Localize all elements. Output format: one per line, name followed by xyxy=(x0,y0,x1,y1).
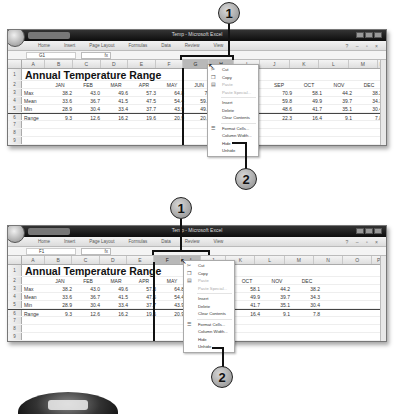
row-header[interactable]: 9 xyxy=(8,137,22,144)
menu-item-insert[interactable]: Insert xyxy=(184,295,234,303)
cell[interactable] xyxy=(22,277,46,284)
tab-insert[interactable]: Insert xyxy=(64,43,75,48)
column-header-a[interactable]: A xyxy=(22,256,45,264)
row-header[interactable]: 6 xyxy=(8,114,22,120)
menu-item-paste[interactable]: ▤Paste xyxy=(184,277,234,285)
menu-item-delete[interactable]: Delete xyxy=(208,107,258,115)
tab-view[interactable]: View xyxy=(214,239,224,244)
menu-item-insert[interactable]: Insert xyxy=(208,99,258,107)
cell[interactable]: 33.4 xyxy=(102,301,130,308)
cell[interactable]: 39.7 xyxy=(324,97,354,104)
cell[interactable]: 9.1 xyxy=(262,310,292,316)
menu-item-format-cells[interactable]: ☰Format Cells... xyxy=(208,125,258,133)
select-all-corner[interactable] xyxy=(8,256,22,264)
cell[interactable]: 49.9 xyxy=(294,97,324,104)
menu-item-paste-special[interactable]: Paste Special... xyxy=(184,285,234,293)
minimize-button[interactable] xyxy=(356,228,364,234)
row-header[interactable]: 8 xyxy=(8,129,22,136)
menu-item-unhide[interactable]: Unhide xyxy=(184,343,234,351)
row-header[interactable]: 1 xyxy=(8,265,22,276)
row-header[interactable]: 4 xyxy=(8,293,22,300)
cell[interactable]: 33.6 xyxy=(46,97,74,104)
month-header[interactable]: NOV xyxy=(262,277,292,284)
menu-item-column-width[interactable]: Column Width... xyxy=(184,328,234,336)
cell[interactable]: 35.1 xyxy=(324,105,354,112)
name-box[interactable]: F1 xyxy=(26,248,76,255)
cell[interactable]: 22.3 xyxy=(264,114,294,120)
cell[interactable]: 33.6 xyxy=(46,293,74,300)
tab-page-layout[interactable]: Page Layout xyxy=(89,239,114,244)
menu-item-clear-contents[interactable]: Clear Contents xyxy=(208,114,258,122)
cell[interactable]: 41.7 xyxy=(232,301,262,308)
sheet-title[interactable]: Annual Temperature Range xyxy=(22,265,161,276)
row-label[interactable]: Max xyxy=(22,285,46,292)
month-header[interactable]: OCT xyxy=(294,81,324,88)
cell[interactable]: 49.6 xyxy=(102,285,130,292)
row-label[interactable]: Max xyxy=(22,89,46,96)
maximize-button[interactable] xyxy=(365,228,373,234)
cell[interactable]: 43.9 xyxy=(158,301,186,308)
cell[interactable]: 34.3 xyxy=(292,293,322,300)
help-icon[interactable]: ? – ▫ × xyxy=(346,43,381,49)
select-all-corner[interactable] xyxy=(8,60,22,68)
cell[interactable]: 35.1 xyxy=(262,301,292,308)
row-header[interactable]: 9 xyxy=(8,333,22,340)
cell[interactable]: 9.1 xyxy=(324,114,354,120)
close-button[interactable] xyxy=(374,228,382,234)
cell[interactable]: 43.0 xyxy=(74,89,102,96)
cell[interactable]: 16.4 xyxy=(232,310,262,316)
month-header[interactable]: SEP xyxy=(264,81,294,88)
cell[interactable] xyxy=(22,81,46,88)
menu-item-copy[interactable]: ❐Copy xyxy=(208,74,258,82)
cell[interactable]: 37.7 xyxy=(130,105,158,112)
cell[interactable]: 49.9 xyxy=(232,293,262,300)
row-header[interactable]: 2 xyxy=(8,81,22,88)
row-header[interactable]: 5 xyxy=(8,301,22,308)
cell[interactable]: 49.6 xyxy=(102,89,130,96)
row-header[interactable]: 4 xyxy=(8,97,22,104)
column-header-l[interactable]: L xyxy=(319,60,349,68)
column-header-e[interactable]: E xyxy=(128,60,156,68)
menu-item-format-cells[interactable]: ☰Format Cells... xyxy=(184,321,234,329)
row-label[interactable]: Mean xyxy=(22,97,46,104)
column-header-m[interactable]: M xyxy=(285,256,314,264)
cell[interactable]: 57.3 xyxy=(130,89,158,96)
cell[interactable]: 64.8 xyxy=(158,285,186,292)
month-header[interactable]: JAN xyxy=(46,81,74,88)
column-header-e[interactable]: E xyxy=(127,256,154,264)
month-header[interactable]: FEB xyxy=(74,277,102,284)
month-header[interactable]: MAR xyxy=(102,81,130,88)
cell[interactable]: 16.2 xyxy=(102,114,130,120)
cell[interactable]: 38.2 xyxy=(46,89,74,96)
row-header[interactable]: 10 xyxy=(8,145,22,146)
cell[interactable]: 16.4 xyxy=(294,114,324,120)
cell[interactable]: 19.6 xyxy=(130,114,158,120)
month-header[interactable]: MAY xyxy=(158,277,186,284)
tab-data[interactable]: Data xyxy=(161,239,171,244)
cell[interactable]: 12.6 xyxy=(74,310,102,316)
fx-icon[interactable]: fx xyxy=(81,52,111,59)
tab-formulas[interactable]: Formulas xyxy=(129,43,148,48)
row-header[interactable]: 8 xyxy=(8,325,22,332)
cell[interactable]: 38.2 xyxy=(292,285,322,292)
menu-item-paste-special[interactable]: Paste Special... xyxy=(208,89,258,97)
tab-formulas[interactable]: Formulas xyxy=(129,239,148,244)
name-box[interactable]: G1 xyxy=(26,52,76,59)
cell[interactable]: 58.1 xyxy=(294,89,324,96)
cell[interactable]: 41.5 xyxy=(102,97,130,104)
tab-data[interactable]: Data xyxy=(161,43,171,48)
column-header-a[interactable]: A xyxy=(22,60,46,68)
column-header-k[interactable]: K xyxy=(290,60,320,68)
month-header[interactable]: MAR xyxy=(102,277,130,284)
cell[interactable]: 28.9 xyxy=(46,301,74,308)
cell[interactable]: 44.2 xyxy=(324,89,354,96)
column-header-j[interactable]: J xyxy=(260,60,290,68)
menu-item-hide[interactable]: Hide xyxy=(184,336,234,344)
cell[interactable]: 48.6 xyxy=(264,105,294,112)
tab-review[interactable]: Review xyxy=(185,43,200,48)
row-header[interactable]: 6 xyxy=(8,310,22,316)
close-button[interactable] xyxy=(374,32,382,38)
column-header-c[interactable]: C xyxy=(73,60,101,68)
menu-item-cut[interactable]: ✂Cut xyxy=(184,262,234,270)
tab-page-layout[interactable]: Page Layout xyxy=(89,43,114,48)
